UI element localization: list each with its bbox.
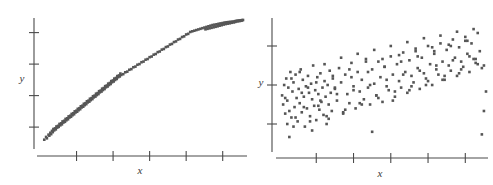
data-point — [410, 75, 413, 78]
data-point — [375, 94, 378, 97]
data-point — [322, 114, 325, 117]
data-point — [348, 102, 351, 105]
data-point — [336, 93, 339, 96]
data-point — [303, 106, 306, 109]
data-point — [318, 108, 321, 111]
data-point — [340, 81, 343, 84]
data-point — [381, 101, 384, 104]
data-point — [476, 32, 479, 35]
data-point — [344, 73, 347, 76]
data-point — [421, 56, 424, 59]
scatter-panel-right: y x — [250, 0, 493, 185]
data-point — [365, 60, 368, 63]
data-point — [470, 42, 473, 45]
data-point — [338, 67, 341, 70]
data-point — [481, 133, 484, 136]
data-point — [427, 45, 430, 48]
data-point — [288, 110, 291, 113]
data-point — [406, 41, 409, 44]
data-point — [346, 93, 349, 96]
data-point — [226, 22, 229, 25]
data-point — [311, 129, 314, 132]
data-point — [46, 137, 49, 140]
data-point — [317, 93, 320, 96]
data-point — [410, 85, 413, 88]
data-point — [300, 111, 303, 114]
data-point — [385, 79, 388, 82]
data-point — [306, 107, 309, 110]
data-point — [398, 80, 401, 83]
data-point — [377, 97, 380, 100]
data-point — [350, 76, 353, 79]
right-x-axis-label: x — [377, 167, 383, 179]
data-point — [312, 64, 315, 67]
data-point — [460, 60, 463, 63]
data-point — [462, 66, 465, 69]
data-point — [379, 76, 382, 79]
data-point — [365, 58, 368, 61]
data-point — [472, 28, 475, 31]
data-point — [292, 125, 295, 128]
data-point — [344, 108, 347, 111]
data-point — [358, 102, 361, 105]
data-point — [330, 110, 333, 113]
data-point — [402, 51, 405, 54]
data-point — [447, 64, 450, 67]
data-point — [319, 99, 322, 102]
data-point — [433, 50, 436, 53]
data-point — [402, 73, 405, 76]
data-point — [328, 69, 331, 72]
data-point — [458, 72, 461, 75]
data-point — [456, 75, 459, 78]
data-point — [206, 28, 209, 31]
data-point — [340, 56, 343, 59]
data-point — [285, 77, 288, 80]
data-point — [416, 67, 419, 70]
data-point — [334, 86, 337, 89]
data-point — [464, 36, 467, 39]
data-point — [311, 98, 314, 101]
data-point — [404, 71, 407, 74]
data-point — [293, 106, 296, 109]
data-point — [485, 90, 488, 93]
data-point — [441, 79, 444, 82]
data-point — [324, 95, 327, 98]
data-point — [323, 80, 326, 83]
data-point — [342, 112, 345, 115]
data-point — [414, 50, 417, 53]
data-point — [332, 77, 335, 80]
data-point — [284, 97, 287, 100]
data-point — [292, 81, 295, 84]
data-point — [336, 99, 339, 102]
data-point — [450, 69, 453, 72]
data-point — [450, 45, 453, 48]
data-point — [309, 115, 312, 118]
data-point — [319, 72, 322, 75]
data-point — [307, 86, 310, 89]
data-point — [400, 86, 403, 89]
data-point — [361, 79, 364, 82]
data-point — [297, 88, 300, 91]
data-point — [474, 58, 477, 61]
data-point — [325, 115, 328, 118]
data-point — [329, 92, 332, 95]
data-point — [309, 120, 312, 123]
data-point — [210, 27, 213, 30]
data-point — [302, 79, 305, 82]
left-y-axis-label: y — [19, 72, 25, 84]
data-point — [218, 24, 221, 27]
data-point — [406, 92, 409, 95]
data-point — [416, 55, 419, 58]
right-axes — [272, 18, 488, 158]
data-point — [460, 68, 463, 71]
data-point — [433, 53, 436, 56]
data-point — [443, 75, 446, 78]
data-point — [315, 119, 318, 122]
right-y-axis-label: y — [258, 76, 264, 88]
data-point — [392, 73, 395, 76]
data-point — [289, 71, 292, 74]
data-point — [369, 103, 372, 106]
data-point — [400, 60, 403, 63]
data-point — [412, 81, 415, 84]
data-point — [468, 71, 471, 74]
